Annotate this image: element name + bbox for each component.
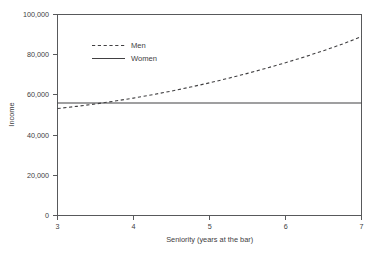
legend-label-men: Men xyxy=(131,41,146,50)
x-axis-title: Seniority (years at the bar) xyxy=(166,235,253,244)
x-tick-label-3: 3 xyxy=(56,222,60,231)
y-tick-label-0: 0 xyxy=(45,211,49,220)
legend-label-women: Women xyxy=(131,54,157,63)
y-tick-label-20000: 20,000 xyxy=(27,171,49,180)
y-axis-ticks xyxy=(53,15,58,216)
income-seniority-line-chart: 100,000 80,000 60,000 40,000 20,000 0 3 … xyxy=(0,0,375,253)
series-line-men xyxy=(58,37,362,109)
y-tick-label-40000: 40,000 xyxy=(27,131,49,140)
y-tick-label-60000: 60,000 xyxy=(27,90,49,99)
x-axis-ticks xyxy=(58,216,362,221)
y-axis-tick-labels: 100,000 80,000 60,000 40,000 20,000 0 xyxy=(23,10,49,220)
chart-legend: Men Women xyxy=(92,41,157,63)
y-axis-title: Income xyxy=(7,102,16,126)
x-tick-label-4: 4 xyxy=(132,222,136,231)
x-tick-label-7: 7 xyxy=(360,222,364,231)
y-tick-label-100000: 100,000 xyxy=(23,10,49,19)
x-tick-label-5: 5 xyxy=(208,222,212,231)
x-axis-tick-labels: 3 4 5 6 7 xyxy=(56,222,364,231)
axis-frame xyxy=(58,14,363,216)
chart-figure: 100,000 80,000 60,000 40,000 20,000 0 3 … xyxy=(0,0,375,253)
series-group xyxy=(58,37,362,109)
y-tick-label-80000: 80,000 xyxy=(27,50,49,59)
x-tick-label-6: 6 xyxy=(284,222,288,231)
